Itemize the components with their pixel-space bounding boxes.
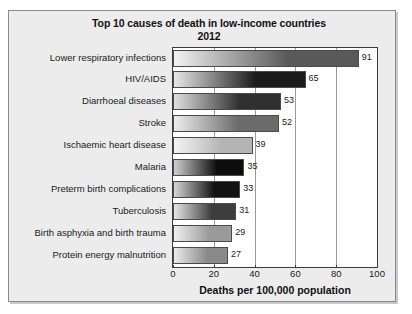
category-axis-labels: Lower respiratory infectionsHIV/AIDSDiar… bbox=[9, 47, 170, 266]
chart-title-block: Top 10 causes of death in low-income cou… bbox=[31, 17, 387, 43]
bar[interactable] bbox=[173, 159, 244, 176]
x-tick-label-0: 0 bbox=[170, 268, 175, 279]
bar-row: 52 bbox=[173, 115, 377, 132]
bar-value-label: 65 bbox=[309, 73, 319, 83]
bar-value-label: 91 bbox=[362, 52, 372, 62]
bar-row: 33 bbox=[173, 181, 377, 198]
category-label: Diarrhoeal diseases bbox=[14, 95, 170, 106]
x-axis-ticks: 020406080100 bbox=[172, 268, 378, 282]
bar-value-label: 29 bbox=[235, 227, 245, 237]
bar[interactable] bbox=[173, 115, 279, 132]
bar[interactable] bbox=[173, 181, 240, 198]
bar-value-label: 52 bbox=[282, 117, 292, 127]
bar-row: 29 bbox=[173, 225, 377, 242]
bar-value-label: 33 bbox=[243, 183, 253, 193]
x-tick-label-60: 60 bbox=[290, 268, 301, 279]
bar[interactable] bbox=[173, 50, 359, 67]
bar-row: 27 bbox=[173, 247, 377, 264]
bar-row: 91 bbox=[173, 50, 377, 67]
category-label: Malaria bbox=[14, 161, 170, 172]
bar[interactable] bbox=[173, 93, 281, 110]
x-tick-label-80: 80 bbox=[331, 268, 342, 279]
category-label: Protein energy malnutrition bbox=[14, 249, 170, 260]
bar-value-label: 35 bbox=[247, 161, 257, 171]
category-label: HIV/AIDS bbox=[14, 73, 170, 84]
bar-value-label: 39 bbox=[256, 139, 266, 149]
x-axis-title: Deaths per 100,000 population bbox=[172, 284, 378, 296]
x-tick-label-40: 40 bbox=[249, 268, 260, 279]
bar[interactable] bbox=[173, 71, 306, 88]
bar-row: 53 bbox=[173, 93, 377, 110]
chart-title: Top 10 causes of death in low-income cou… bbox=[31, 17, 387, 30]
bar[interactable] bbox=[173, 137, 253, 154]
category-label: Stroke bbox=[14, 117, 170, 128]
bar[interactable] bbox=[173, 225, 232, 242]
chart-figure: Top 10 causes of death in low-income cou… bbox=[8, 10, 396, 302]
category-label: Tuberculosis bbox=[14, 205, 170, 216]
bar-row: 39 bbox=[173, 137, 377, 154]
bar-value-label: 27 bbox=[231, 249, 241, 259]
x-tick-label-100: 100 bbox=[369, 268, 385, 279]
bar-value-label: 31 bbox=[239, 205, 249, 215]
category-label: Birth asphyxia and birth trauma bbox=[14, 227, 170, 238]
x-tick-label-20: 20 bbox=[209, 268, 220, 279]
category-label: Ischaemic heart disease bbox=[14, 139, 170, 150]
bar-row: 31 bbox=[173, 203, 377, 220]
chart-subtitle-year: 2012 bbox=[31, 30, 387, 43]
bar[interactable] bbox=[173, 203, 236, 220]
category-label: Preterm birth complications bbox=[14, 183, 170, 194]
plot-area: 91655352393533312927 bbox=[172, 47, 378, 268]
bar[interactable] bbox=[173, 247, 228, 264]
bar-row: 65 bbox=[173, 71, 377, 88]
category-label: Lower respiratory infections bbox=[14, 52, 170, 63]
bar-value-label: 53 bbox=[284, 95, 294, 105]
bar-row: 35 bbox=[173, 159, 377, 176]
